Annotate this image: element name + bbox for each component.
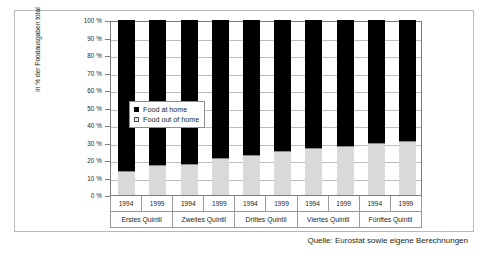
y-axis-tick-label: 70 % [72, 70, 102, 77]
bar-segment-food-at-home [337, 20, 354, 146]
white-square-icon [134, 117, 139, 122]
x-axis-year-label: 1999 [142, 196, 173, 211]
x-axis-year-label: 1994 [298, 196, 329, 211]
x-axis-group-label: Drittes Quintil [235, 212, 297, 227]
bar-segment-food-out-of-home [149, 165, 166, 195]
bar-segment-food-out-of-home [399, 141, 416, 195]
x-axis-group-label: Viertes Quintil [298, 212, 360, 227]
x-axis-year-label: 1999 [329, 196, 360, 211]
x-axis-group-label: Zweites Quintil [173, 212, 235, 227]
y-axis-tick-label: 30 % [72, 140, 102, 147]
bar-segment-food-at-home [118, 20, 135, 171]
source-note: Quelle: Eurostat sowie eigene Berechnung… [307, 236, 468, 245]
bar-segment-food-at-home [149, 20, 166, 165]
x-axis-year-label: 1994 [360, 196, 391, 211]
chart-legend: Food at home Food out of home [129, 101, 205, 128]
x-axis-year-label: 1999 [391, 196, 422, 211]
y-axis-tick-label: 50 % [72, 105, 102, 112]
table-row [368, 20, 385, 195]
y-axis-title: in % der Foodausgaben total [34, 0, 41, 120]
bar-segment-food-out-of-home [368, 143, 385, 196]
table-row [337, 20, 354, 195]
bar-segment-food-at-home [368, 20, 385, 143]
y-axis-tick-label: 10 % [72, 175, 102, 182]
bar-segment-food-out-of-home [305, 148, 322, 195]
bar-segment-food-out-of-home [212, 158, 229, 195]
legend-item-food-out-of-home: Food out of home [134, 114, 199, 124]
bar-segment-food-out-of-home [118, 171, 135, 196]
y-axis-tick-label: 100 % [72, 17, 102, 24]
table-row [212, 20, 229, 195]
bar-segment-food-at-home [181, 20, 198, 164]
x-axis-year-label: 1994 [173, 196, 204, 211]
black-square-icon [134, 107, 139, 112]
bar-segment-food-at-home [212, 20, 229, 158]
y-axis-tick-label: 0 % [72, 192, 102, 199]
bar-segment-food-at-home [274, 20, 291, 151]
bar-segment-food-out-of-home [274, 151, 291, 195]
x-axis-year-labels: 1994199919941999199419991994199919941999 [110, 196, 422, 212]
bar-segment-food-at-home [305, 20, 322, 148]
bar-segment-food-out-of-home [181, 164, 198, 196]
y-axis-tick-label: 90 % [72, 35, 102, 42]
x-axis-year-label: 1994 [111, 196, 142, 211]
x-axis-group-labels: Erstes QuintilZweites QuintilDrittes Qui… [110, 212, 422, 228]
bar-segment-food-out-of-home [243, 155, 260, 195]
legend-item-food-at-home: Food at home [134, 104, 199, 114]
y-axis-tick-label: 80 % [72, 52, 102, 59]
y-axis-tick-label: 20 % [72, 157, 102, 164]
y-axis-tick-label: 60 % [72, 87, 102, 94]
chart-figure: in % der Foodausgaben total 100 %90 %80 … [0, 0, 488, 260]
y-axis-tick-label: 40 % [72, 122, 102, 129]
x-axis-year-label: 1999 [204, 196, 235, 211]
table-row [274, 20, 291, 195]
x-axis-group-label: Erstes Quintil [111, 212, 173, 227]
x-axis-group-label: Fünftes Quintil [360, 212, 422, 227]
bar-segment-food-out-of-home [337, 146, 354, 195]
bar-segment-food-at-home [399, 20, 416, 141]
x-axis-year-label: 1994 [235, 196, 266, 211]
legend-label: Food out of home [143, 115, 199, 124]
table-row [243, 20, 260, 195]
bar-segment-food-at-home [243, 20, 260, 155]
table-row [399, 20, 416, 195]
x-axis-year-label: 1999 [266, 196, 297, 211]
table-row [305, 20, 322, 195]
legend-label: Food at home [143, 105, 187, 114]
